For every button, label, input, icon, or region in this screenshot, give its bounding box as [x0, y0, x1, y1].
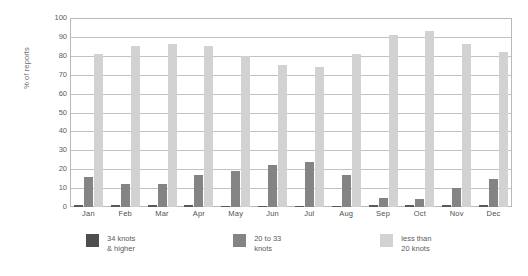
- gridline: [71, 188, 511, 189]
- x-axis-tick-label: Apr: [180, 209, 217, 218]
- y-axis-tick-label: 20: [45, 165, 67, 173]
- legend-label: 20 to 33knots: [254, 234, 281, 253]
- gridline: [71, 75, 511, 76]
- x-axis-tick-label: Dec: [475, 209, 512, 218]
- plot-area: [70, 18, 512, 207]
- x-axis-tick-label: Nov: [438, 209, 475, 218]
- legend-swatch: [380, 234, 393, 247]
- y-axis-tick-label: 100: [45, 14, 67, 22]
- y-axis-tick-label: 40: [45, 127, 67, 135]
- x-axis-tick-labels: JanFebMarAprMayJunJulAugSepOctNovDec: [70, 209, 512, 218]
- gridline: [71, 94, 511, 95]
- gridline: [71, 56, 511, 57]
- gridline: [71, 113, 511, 114]
- legend-label-line1: 20 to 33: [254, 234, 281, 244]
- legend-label-line2: knots: [254, 244, 281, 254]
- legend-swatch: [233, 234, 246, 247]
- y-axis-tick-label: 10: [45, 184, 67, 192]
- legend-item: 34 knots& higher: [70, 234, 217, 253]
- x-axis-tick-label: May: [217, 209, 254, 218]
- legend-swatch: [86, 234, 99, 247]
- x-axis-tick-label: Mar: [144, 209, 181, 218]
- x-axis-tick-label: Sep: [365, 209, 402, 218]
- gridline: [71, 131, 511, 132]
- x-axis-tick-label: Oct: [401, 209, 438, 218]
- legend-label-line2: & higher: [107, 244, 135, 254]
- y-axis-title: % of reports: [22, 28, 38, 108]
- x-axis-tick-label: Jan: [70, 209, 107, 218]
- x-axis-tick-label: Jun: [254, 209, 291, 218]
- x-axis-tick-label: Jul: [291, 209, 328, 218]
- x-axis-tick-label: Feb: [107, 209, 144, 218]
- legend-label: 34 knots& higher: [107, 234, 135, 253]
- y-axis-tick-labels: 1009080706050403020100: [42, 18, 67, 207]
- gridline: [71, 169, 511, 170]
- legend-label: less than20 knots: [401, 234, 431, 253]
- y-axis-tick-label: 70: [45, 71, 67, 79]
- chart-legend: 34 knots& higher20 to 33knotsless than20…: [70, 234, 512, 253]
- legend-item: 20 to 33knots: [217, 234, 364, 253]
- y-axis-tick-label: 50: [45, 109, 67, 117]
- wind-speed-bar-chart: % of reports 1009080706050403020100 JanF…: [0, 0, 528, 276]
- x-axis-tick-label: Aug: [328, 209, 365, 218]
- y-axis-tick-label: 0: [45, 203, 67, 211]
- y-axis-tick-label: 80: [45, 52, 67, 60]
- legend-label-line1: 34 knots: [107, 234, 135, 244]
- y-axis-tick-label: 60: [45, 90, 67, 98]
- gridline: [71, 37, 511, 38]
- gridline: [71, 150, 511, 151]
- y-axis-tick-label: 90: [45, 33, 67, 41]
- legend-label-line2: 20 knots: [401, 244, 431, 254]
- y-axis-tick-label: 30: [45, 146, 67, 154]
- legend-label-line1: less than: [401, 234, 431, 244]
- legend-item: less than20 knots: [364, 234, 511, 253]
